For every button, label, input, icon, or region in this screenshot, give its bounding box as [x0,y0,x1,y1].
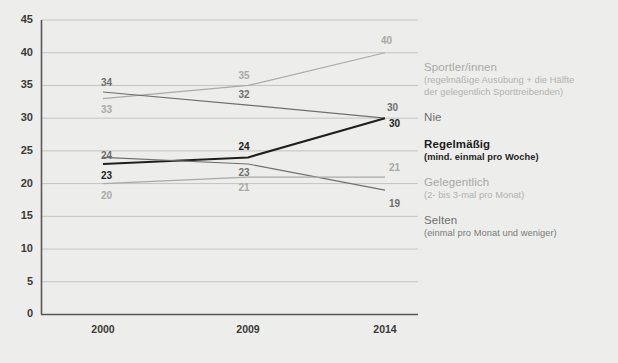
y-tick-label: 0 [27,307,33,319]
legend-sub-gelegentlich: (2- bis 3-mal pro Monat) [424,189,614,201]
y-tick-label: 45 [21,13,33,25]
point-label: 33 [101,104,113,115]
legend-title-selten: Selten [424,213,614,227]
chart-legend: Sportler/innen (regelmäßige Ausübung + d… [424,60,614,247]
y-axis-tick-labels: 051015202530354045 [21,13,33,320]
legend-title-nie: Nie [424,110,614,124]
legend-sub-selten: (einmal pro Monat und weniger) [424,227,614,239]
point-label: 40 [381,35,393,46]
point-label: 34 [101,77,113,88]
gridlines [42,20,419,282]
y-tick-label: 40 [21,46,33,58]
y-tick-label: 10 [21,242,33,254]
legend-item-nie: Nie [424,110,614,124]
legend-item-selten: Selten (einmal pro Monat und weniger) [424,213,614,239]
point-label: 23 [238,167,250,178]
y-tick-label: 30 [21,111,33,123]
point-label: 19 [389,198,401,209]
point-label: 30 [387,102,399,113]
legend-sub-sportler-line2: der gelegentlich Sporttreibenden) [424,86,614,98]
point-label: 21 [238,182,250,193]
legend-item-gelegentlich: Gelegentlich (2- bis 3-mal pro Monat) [424,175,614,201]
x-tick-label: 2000 [91,323,115,335]
point-label: 24 [101,150,113,161]
legend-title-sportler: Sportler/innen [424,60,614,74]
point-label: 24 [238,141,250,152]
x-tick-label: 2009 [236,323,260,335]
point-label: 20 [101,190,113,201]
point-label: 21 [389,162,401,173]
data-point-labels: 333540343230232430242319202121 [101,35,401,209]
y-tick-label: 15 [21,209,33,221]
legend-title-gelegentlich: Gelegentlich [424,175,614,189]
line-chart: 051015202530354045 200020092014 33354034… [0,0,618,363]
x-axis-tick-labels: 200020092014 [91,323,397,335]
legend-sub-regelmaessig: (mind. einmal pro Woche) [424,151,614,163]
point-label: 30 [389,118,401,129]
y-tick-label: 20 [21,177,33,189]
legend-item-regelmaessig: Regelmäßig (mind. einmal pro Woche) [424,137,614,163]
y-tick-label: 25 [21,144,33,156]
x-tick-label: 2014 [373,323,397,335]
y-tick-label: 5 [27,275,33,287]
legend-title-regelmaessig: Regelmäßig [424,137,614,151]
point-label: 35 [238,70,250,81]
y-tick-label: 35 [21,78,33,90]
legend-item-sportler: Sportler/innen (regelmäßige Ausübung + d… [424,60,614,98]
point-label: 23 [101,170,113,181]
legend-sub-sportler-line1: (regelmäßige Ausübung + die Hälfte [424,74,614,86]
point-label: 32 [238,89,250,100]
